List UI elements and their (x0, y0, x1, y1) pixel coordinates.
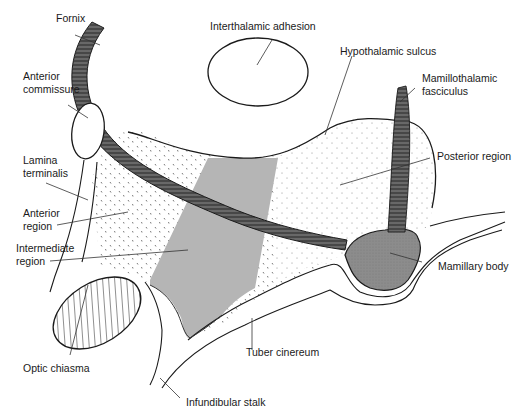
label-interthalamic-adhesion: Interthalamic adhesion (210, 20, 316, 33)
optic-chiasma (40, 262, 153, 364)
label-posterior-region: Posterior region (437, 150, 511, 163)
label-fornix: Fornix (56, 12, 85, 25)
anterior-commissure (68, 101, 107, 161)
label-mamillothalamic-line2: fasciculus (422, 85, 468, 98)
label-anterior-region-line1: Anterior (23, 207, 60, 220)
label-intermediate-region-line1: Intermediate (16, 242, 74, 255)
label-infundibular-stalk: Infundibular stalk (186, 396, 265, 409)
label-mamillary-body: Mamillary body (438, 260, 509, 273)
label-anterior-commissure-line2: commissure (23, 83, 80, 96)
interthalamic-adhesion (208, 38, 308, 106)
label-tuber-cinereum: Tuber cinereum (246, 346, 319, 359)
hypothalamus-diagram: Fornix Interthalamic adhesion Hypothalam… (0, 0, 522, 418)
label-intermediate-region-line2: region (16, 255, 45, 268)
label-hypothalamic-sulcus: Hypothalamic sulcus (340, 45, 436, 58)
label-lamina-terminalis-line1: Lamina (23, 154, 57, 167)
label-optic-chiasma: Optic chiasma (23, 362, 90, 375)
label-mamillothalamic-line1: Mamillothalamic (422, 72, 497, 85)
floor-inner (145, 282, 162, 385)
label-lamina-terminalis-line2: terminalis (23, 167, 68, 180)
label-anterior-commissure-line1: Anterior (23, 70, 60, 83)
label-anterior-region-line2: region (23, 220, 52, 233)
